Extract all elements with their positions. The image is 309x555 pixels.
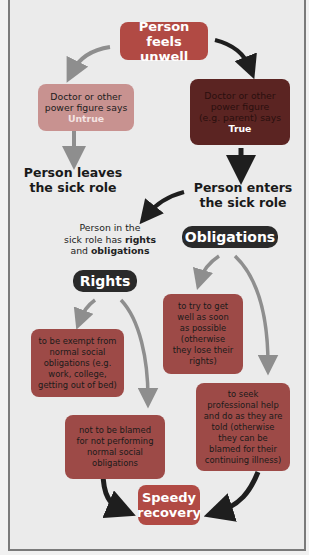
node-text: (otherwise [181,334,225,345]
node-text: normal social [50,347,106,358]
node-text: not to be blamed [79,425,151,436]
node-text: obligations [92,458,138,469]
node-text: for not performing [77,436,154,447]
node-text: Person feels [120,19,208,49]
node-person-enters: Person enters the sick role [188,180,298,210]
pill-rights: Rights [73,270,137,292]
node-text: professional help [207,400,279,411]
node-text: Person leaves [18,165,128,180]
node-text: Speedy [142,490,196,505]
node-text-bold: rights [125,234,156,245]
node-text: told (otherwise [212,422,275,433]
node-text: getting out of bed) [38,380,117,391]
node-text: and [71,245,91,256]
node-text: as possible [180,323,226,334]
node-text: to be exempt from [39,336,117,347]
node-rights-and-obligations: Person in the sick role has rights and o… [55,222,165,257]
node-text: (e.g. parent) says [199,112,281,123]
node-text: power figure says [45,102,128,113]
node-text: Doctor or other [50,91,121,102]
arrow-rights-to-r2 [121,300,148,398]
verdict-untrue: Untrue [68,113,104,124]
node-text: to try to get [178,301,228,312]
node-text: Person in the [55,222,165,234]
node-person-feels-unwell: Person feels unwell [120,22,208,60]
node-untrue: Doctor or other power figure says Untrue [38,84,134,131]
node-text: blamed for their [209,444,277,455]
node-text: they lose their [173,345,234,356]
arrow-ob2-to-recovery [218,472,258,512]
node-text: obligations (e.g. [44,358,112,369]
arrow-unwell-to-untrue [72,47,110,72]
node-true: Doctor or other power figure (e.g. paren… [190,79,290,145]
node-text-bold: obligations [91,245,150,256]
node-person-leaves: Person leaves the sick role [18,165,128,195]
node-text: rights) [189,356,216,367]
node-text: normal social [87,447,143,458]
node-text: well as soon [177,312,228,323]
node-text: work, college, [48,369,106,380]
pill-obligations: Obligations [182,226,278,248]
node-right-exempt: to be exempt from normal social obligati… [31,329,124,397]
node-text: sick role has [64,234,125,245]
verdict-true: True [229,123,252,134]
node-text: Doctor or other [204,90,275,101]
node-right-not-blamed: not to be blamed for not performing norm… [65,415,165,479]
node-text: they can be [218,433,268,444]
arrow-rights-to-r1 [80,300,95,320]
node-text: recovery [137,505,201,520]
node-obligation-seek-help: to seek professional help and do as they… [196,383,290,471]
node-text: continuing illness) [205,455,281,466]
node-text: the sick role [188,195,298,210]
node-text: unwell [140,49,188,64]
node-text: the sick role [18,180,128,195]
node-speedy-recovery: Speedy recovery [138,485,200,525]
node-text: Person enters [188,180,298,195]
node-text: and do as they are [204,411,283,422]
arrow-unwell-to-true [215,40,250,68]
node-obligation-get-well: to try to get well as soon as possible (… [163,294,243,374]
node-text: power figure [211,101,270,112]
arrow-obligations-to-ob1 [200,256,219,280]
arrow-enters-to-rights [147,192,184,215]
node-text: to seek [228,389,259,400]
